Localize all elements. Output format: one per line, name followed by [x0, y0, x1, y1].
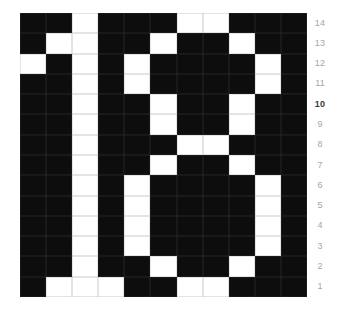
grid-cell: [98, 13, 124, 33]
grid-cell: [20, 256, 46, 276]
grid-cell: [281, 33, 307, 53]
grid-cell: [203, 33, 229, 53]
grid-cell: [281, 175, 307, 195]
row-label-2: 2: [307, 256, 333, 276]
grid-cell: [177, 135, 203, 155]
row-label-8: 8: [307, 135, 333, 155]
grid-cell: [98, 94, 124, 114]
grid-cell: [46, 114, 72, 134]
grid-cell: [124, 94, 150, 114]
row-label-7: 7: [307, 155, 333, 175]
grid-cell: [46, 256, 72, 276]
grid-cell: [150, 155, 176, 175]
grid-cell: [281, 135, 307, 155]
grid-cell: [229, 236, 255, 256]
grid-cell: [255, 196, 281, 216]
grid-cell: [229, 94, 255, 114]
grid-cell: [229, 135, 255, 155]
grid-cell: [150, 33, 176, 53]
row-label-6: 6: [307, 175, 333, 195]
grid-cell: [20, 13, 46, 33]
grid-cell: [203, 135, 229, 155]
grid-cell: [124, 216, 150, 236]
grid-cell: [46, 54, 72, 74]
grid-cell: [229, 33, 255, 53]
grid-cell: [124, 256, 150, 276]
grid-cell: [177, 236, 203, 256]
row-label-5: 5: [307, 196, 333, 216]
grid-cell: [72, 135, 98, 155]
grid-cell: [281, 155, 307, 175]
grid-cell: [255, 216, 281, 236]
grid-cell: [150, 196, 176, 216]
grid-cell: [229, 175, 255, 195]
grid-cell: [150, 13, 176, 33]
grid-cell: [46, 13, 72, 33]
grid-cell: [150, 54, 176, 74]
grid-cell: [20, 114, 46, 134]
grid-cell: [255, 277, 281, 297]
grid-cell: [255, 13, 281, 33]
grid-cell: [98, 236, 124, 256]
grid-cell: [177, 114, 203, 134]
grid-cell: [177, 33, 203, 53]
grid-cell: [46, 236, 72, 256]
grid-cell: [229, 74, 255, 94]
grid-cell: [98, 155, 124, 175]
grid-cell: [72, 94, 98, 114]
grid-cell: [98, 216, 124, 236]
row-label-4: 4: [307, 216, 333, 236]
grid-cell: [229, 54, 255, 74]
grid-cell: [150, 256, 176, 276]
grid-cell: [255, 33, 281, 53]
grid-cell: [203, 175, 229, 195]
grid-cell: [203, 54, 229, 74]
grid-cell: [255, 74, 281, 94]
grid-cell: [20, 33, 46, 53]
grid-cell: [229, 155, 255, 175]
grid-cell: [255, 236, 281, 256]
grid-cell: [46, 155, 72, 175]
grid-cell: [98, 256, 124, 276]
grid-cell: [177, 196, 203, 216]
grid-cell: [46, 135, 72, 155]
grid-cell: [281, 13, 307, 33]
grid-cell: [177, 54, 203, 74]
grid-cell: [124, 155, 150, 175]
grid-cell: [177, 94, 203, 114]
grid-cell: [203, 196, 229, 216]
grid-cell: [72, 175, 98, 195]
grid-cell: [177, 13, 203, 33]
grid-cell: [20, 135, 46, 155]
grid-cell: [229, 196, 255, 216]
grid-cell: [203, 13, 229, 33]
grid-cell: [281, 277, 307, 297]
grid-cell: [150, 94, 176, 114]
grid-cell: [98, 114, 124, 134]
grid-cell: [72, 54, 98, 74]
grid-cell: [72, 114, 98, 134]
grid-cell: [72, 155, 98, 175]
grid-cell: [124, 135, 150, 155]
grid-cell: [150, 216, 176, 236]
grid-cell: [46, 33, 72, 53]
grid-cell: [72, 236, 98, 256]
grid-cell: [177, 175, 203, 195]
grid-cell: [255, 54, 281, 74]
grid-cell: [72, 74, 98, 94]
grid-cell: [150, 74, 176, 94]
grid-cell: [203, 155, 229, 175]
grid-cell: [124, 236, 150, 256]
grid-cell: [281, 216, 307, 236]
row-label-9: 9: [307, 114, 333, 134]
grid-cell: [229, 256, 255, 276]
grid-cell: [255, 94, 281, 114]
grid-cell: [20, 196, 46, 216]
grid-cell: [150, 175, 176, 195]
grid-cell: [229, 13, 255, 33]
grid-cell: [150, 114, 176, 134]
grid-cell: [255, 135, 281, 155]
grid-cell: [255, 175, 281, 195]
grid-cell: [203, 277, 229, 297]
grid-cell: [98, 135, 124, 155]
